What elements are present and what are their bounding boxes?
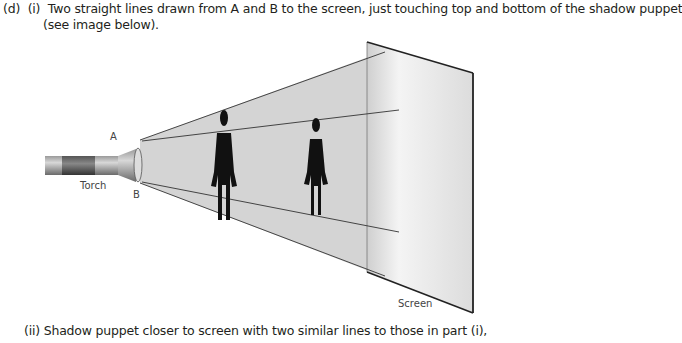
subpart-ii-text: Shadow puppet closer to screen with two …	[44, 323, 487, 338]
screen-label: Screen	[398, 298, 432, 309]
subpart-ii-label: (ii)	[24, 323, 40, 338]
torch-label: Torch	[80, 180, 106, 191]
torch-icon	[45, 148, 142, 182]
question-line-ii: (ii) Shadow puppet closer to screen with…	[24, 323, 487, 338]
point-a-label: A	[110, 131, 117, 142]
screen	[367, 42, 473, 313]
light-beam	[140, 52, 382, 276]
point-b-label: B	[133, 189, 140, 200]
